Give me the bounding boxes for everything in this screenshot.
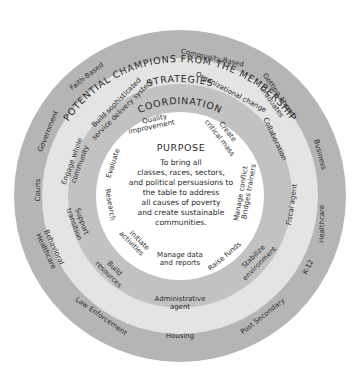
purpose-line-5: all causes of poverty: [142, 198, 221, 207]
purpose-line-6: and create sustainable: [138, 208, 225, 217]
strategy-agent: agent: [170, 303, 190, 311]
purpose-line-1: To bring all: [159, 158, 201, 167]
coord-and-reports: and reports: [160, 259, 201, 267]
coord-manage-data: Manage data: [157, 251, 203, 259]
purpose-title: PURPOSE: [157, 142, 206, 153]
purpose-line-3: and political persuasions to: [129, 178, 234, 187]
champion-healthcare: Healthcare: [318, 205, 326, 243]
purpose-line-7: communities.: [155, 218, 206, 227]
champions-diagram: POTENTIAL CHAMPIONS FROM THE MEMBERSHIP …: [0, 0, 361, 380]
purpose-line-4: the table to address: [143, 188, 219, 197]
champion-housing: Housing: [166, 332, 194, 340]
champion-courts: Courts: [34, 178, 42, 201]
purpose-line-2: classes, races, sectors,: [137, 168, 225, 177]
strategy-administrative: Administrative: [155, 295, 206, 303]
